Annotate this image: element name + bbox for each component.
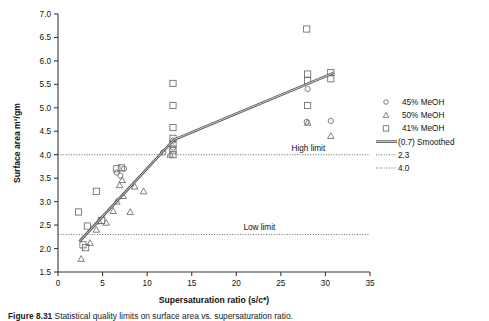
y-tick-label: 4.5 (40, 127, 52, 136)
x-axis-title: Supersaturation ratio (s/c*) (159, 295, 269, 305)
high-limit-label: High limit (292, 144, 326, 153)
legend-label: 4.0 (398, 164, 410, 173)
series-50-meoh (78, 120, 334, 262)
y-tick-label: 1.5 (40, 268, 52, 277)
data-point-square (84, 223, 90, 229)
legend-label: 50% MeOH (402, 111, 444, 120)
y-tick-label: 6.0 (40, 57, 52, 66)
data-point-circle (305, 86, 310, 91)
smoothed-line (79, 73, 334, 242)
y-tick-label: 4.0 (40, 151, 52, 160)
x-tick-label: 15 (187, 279, 197, 288)
y-tick-label: 2.5 (40, 221, 52, 230)
legend-label: 45% MeOH (402, 98, 444, 107)
legend-item-1[interactable]: 50% MeOH (383, 111, 444, 120)
x-tick-label: 25 (276, 279, 286, 288)
data-point-square (170, 80, 176, 86)
legend-item-3[interactable]: (0.7) Smoothed (376, 138, 455, 147)
data-point-triangle (140, 188, 147, 194)
legend-label: 41% MeOH (402, 124, 444, 133)
y-axis-title: Surface area m²/gm (12, 103, 22, 183)
data-point-triangle (119, 177, 126, 183)
y-tick-label: 2.0 (40, 245, 52, 254)
smoothed-polyline-inner (79, 73, 334, 242)
x-tick-label: 30 (321, 279, 331, 288)
series-45-meoh (114, 86, 333, 178)
legend-label: (0.7) Smoothed (398, 138, 455, 147)
data-point-square (170, 102, 176, 108)
y-tick-label: 6.5 (40, 33, 52, 42)
data-point-square (75, 209, 81, 215)
data-point-square (93, 188, 99, 194)
y-tick-label: 3.0 (40, 198, 52, 207)
data-point-square (328, 76, 334, 82)
figure-container: High limitLow limit 051015202530351.52.0… (0, 0, 489, 321)
data-point-square (305, 102, 311, 108)
data-point-square (304, 26, 310, 32)
x-tick-label: 35 (365, 279, 375, 288)
data-point-triangle (103, 219, 110, 225)
x-tick-label: 10 (143, 279, 153, 288)
figure-caption: Figure 8.31 Statistical quality limits o… (8, 311, 293, 321)
data-point-triangle (328, 133, 335, 139)
x-tick-label: 20 (232, 279, 242, 288)
y-tick-label: 3.5 (40, 174, 52, 183)
data-point-circle (384, 100, 389, 105)
x-tick-label: 5 (100, 279, 105, 288)
legend-item-0[interactable]: 45% MeOH (384, 98, 445, 107)
data-point-square (383, 126, 388, 131)
data-point-triangle (383, 112, 389, 117)
low-limit-label: Low limit (243, 223, 276, 232)
data-point-triangle (127, 209, 134, 215)
legend-item-5[interactable]: 4.0 (376, 164, 410, 173)
series-41-meoh (75, 26, 333, 251)
caption-label: Figure 8.31 (8, 311, 52, 321)
legend-item-2[interactable]: 41% MeOH (383, 124, 444, 133)
legend-item-4[interactable]: 2.3 (376, 151, 410, 160)
smoothed-polyline (79, 73, 334, 242)
legend-label: 2.3 (398, 151, 410, 160)
data-point-triangle (78, 256, 85, 262)
y-tick-label: 5.5 (40, 80, 52, 89)
caption-text: Statistical quality limits on surface ar… (55, 311, 293, 321)
data-point-square (170, 124, 176, 130)
chart-canvas: High limitLow limit 051015202530351.52.0… (0, 0, 489, 321)
y-tick-label: 5.0 (40, 104, 52, 113)
x-tick-label: 0 (56, 279, 61, 288)
data-point-circle (328, 118, 333, 123)
y-tick-label: 7.0 (40, 10, 52, 19)
legend: 45% MeOH50% MeOH41% MeOH(0.7) Smoothed2.… (376, 98, 455, 173)
data-point-square (305, 71, 311, 77)
